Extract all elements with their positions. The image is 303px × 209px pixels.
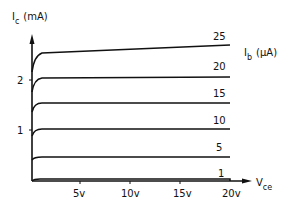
curve-ib-5	[32, 157, 230, 160]
curve-ib-20	[32, 77, 230, 92]
curve-ib-10	[32, 129, 230, 136]
legend-title: Ib(μA)	[244, 47, 277, 62]
curve-ib-25	[32, 45, 230, 72]
y-tick-label-2: 2	[17, 75, 23, 86]
x-axis-arrow-icon	[242, 179, 252, 184]
curve-label-10: 10	[213, 115, 226, 126]
curve-label-25: 25	[213, 31, 226, 42]
curve-label-5: 5	[216, 142, 222, 153]
x-tick-label-5: 5v	[73, 188, 85, 199]
y-axis-label: Ic(mA)	[12, 11, 48, 26]
chart: 1 2 5v 10v 15v 20v Ic(mA) Vce Ib(μA) 25 …	[0, 0, 303, 209]
x-tick-label-20: 20v	[222, 188, 241, 199]
x-axis-label: Vce	[256, 177, 272, 192]
curve-label-15: 15	[213, 88, 226, 99]
curve-label-1: 1	[218, 168, 224, 179]
x-tick-label-10: 10v	[121, 188, 140, 199]
curve-ib-15	[32, 103, 230, 112]
y-tick-label-1: 1	[17, 125, 23, 136]
y-axis-arrow-icon	[30, 34, 35, 44]
x-tick-label-15: 15v	[173, 188, 192, 199]
curve-label-20: 20	[213, 61, 226, 72]
